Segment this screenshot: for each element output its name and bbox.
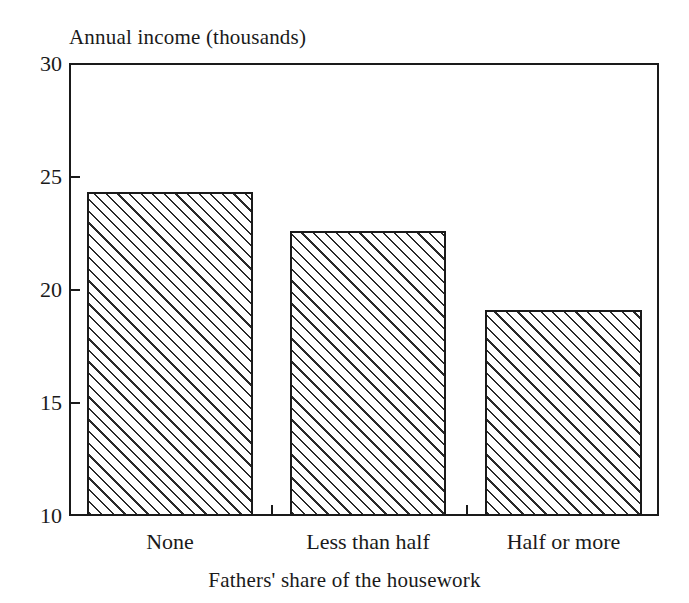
y-axis-title: Annual income (thousands) <box>69 24 306 50</box>
x-tick-mark-1 <box>271 505 273 516</box>
x-tick-mark-2 <box>466 505 468 516</box>
x-tick-label-none: None <box>87 528 253 556</box>
bar-chart-figure: Annual income (thousands) 30 25 20 15 10… <box>0 0 689 603</box>
x-tick-label-half-or-more: Half or more <box>485 528 642 556</box>
x-tick-label-less-than-half: Less than half <box>290 528 446 556</box>
x-axis-title: Fathers' share of the housework <box>0 567 689 593</box>
x-axis-tick-marks <box>0 63 689 516</box>
